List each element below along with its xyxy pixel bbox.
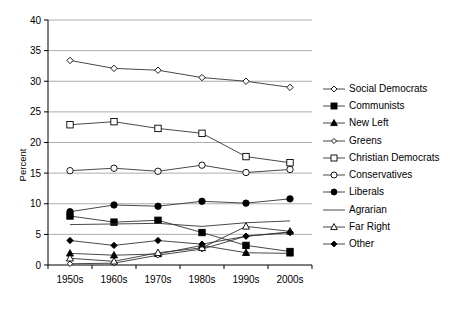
series-social-democrats [67, 57, 293, 90]
y-tick-label: 5 [35, 229, 41, 240]
data-point [155, 67, 161, 73]
data-point [199, 162, 205, 168]
data-point [155, 217, 161, 223]
open-diamond-marker-icon [322, 82, 346, 96]
open-square-marker-icon [322, 151, 346, 165]
legend-label: Christian Democrats [346, 152, 440, 164]
y-axis-tick-labels: 0510152025303540 [30, 15, 42, 271]
series-conservatives [67, 162, 293, 176]
legend-item-social-democrats[interactable]: Social Democrats [322, 80, 462, 97]
chart-legend: Social DemocratsCommunistsNew LeftGreens… [322, 80, 462, 253]
y-tick-label: 35 [30, 45, 42, 56]
x-axis-ticks [48, 265, 312, 269]
chart-figure: 0510152025303540 1950s1960s1970s1980s199… [0, 0, 464, 312]
data-point [199, 229, 205, 235]
filled-square-marker-icon [322, 99, 346, 113]
y-tick-label: 20 [30, 137, 42, 148]
legend-label: Far Right [346, 221, 390, 233]
legend-item-other[interactable]: Other [322, 236, 462, 253]
data-point [67, 167, 73, 173]
data-point [111, 242, 117, 248]
data-point [243, 153, 249, 159]
data-point [111, 202, 117, 208]
data-point [287, 196, 293, 202]
open-triangle-marker-icon [322, 220, 346, 234]
data-point [67, 57, 73, 63]
y-tick-label: 0 [35, 260, 41, 271]
data-point [199, 198, 205, 204]
legend-item-agrarian[interactable]: Agrarian [322, 201, 462, 218]
data-point [287, 160, 293, 166]
data-point [287, 229, 293, 235]
x-axis-category-labels: 1950s1960s1970s1980s1990s2000s [56, 274, 303, 285]
y-tick-label: 15 [30, 168, 42, 179]
y-tick-label: 40 [30, 15, 42, 26]
open-circle-marker-icon [322, 168, 346, 182]
data-point [67, 237, 73, 243]
data-point [155, 237, 161, 243]
y-axis-title: Percent [17, 148, 28, 181]
data-point [199, 130, 205, 136]
legend-item-liberals[interactable]: Liberals [322, 184, 462, 201]
filled-circle-marker-icon [322, 185, 346, 199]
data-point [287, 166, 293, 172]
series-communists [67, 213, 293, 255]
data-point [155, 203, 161, 209]
data-series-group [66, 57, 293, 266]
legend-label: Social Democrats [346, 83, 427, 95]
y-axis-ticks [44, 20, 48, 265]
data-point [155, 125, 161, 131]
data-point [111, 65, 117, 71]
data-point [155, 168, 161, 174]
data-point [199, 74, 205, 80]
legend-item-communists[interactable]: Communists [322, 97, 462, 114]
data-point [243, 242, 249, 248]
x-category-label: 2000s [276, 274, 303, 285]
open-diamond-small-marker-icon [322, 134, 346, 148]
x-category-label: 1980s [188, 274, 215, 285]
data-point [243, 169, 249, 175]
legend-label: Liberals [346, 186, 384, 198]
x-category-label: 1970s [144, 274, 171, 285]
legend-item-new-left[interactable]: New Left [322, 115, 462, 132]
series-other [67, 229, 293, 248]
filled-diamond-marker-icon [322, 237, 346, 251]
y-tick-label: 25 [30, 106, 42, 117]
data-point [67, 261, 72, 266]
y-tick-label: 10 [30, 198, 42, 209]
x-category-label: 1960s [100, 274, 127, 285]
legend-item-greens[interactable]: Greens [322, 132, 462, 149]
gridlines [48, 20, 312, 234]
series-far-right [66, 223, 293, 264]
x-category-label: 1950s [56, 274, 83, 285]
data-point [243, 233, 249, 239]
legend-item-conservatives[interactable]: Conservatives [322, 166, 462, 183]
data-point [67, 122, 73, 128]
legend-item-christian-democrats[interactable]: Christian Democrats [322, 149, 462, 166]
legend-label: New Left [346, 117, 388, 129]
legend-label: Greens [346, 135, 382, 147]
legend-label: Conservatives [346, 169, 412, 181]
data-point [243, 78, 249, 84]
x-category-label: 1990s [232, 274, 259, 285]
data-point [111, 118, 117, 124]
legend-label: Agrarian [346, 204, 387, 216]
data-point [67, 209, 73, 215]
legend-item-far-right[interactable]: Far Right [322, 218, 462, 235]
data-point [111, 165, 117, 171]
series-agrarian [70, 221, 290, 227]
filled-triangle-marker-icon [322, 116, 346, 130]
series-liberals [67, 196, 293, 215]
legend-label: Communists [346, 100, 405, 112]
data-point [287, 84, 293, 90]
legend-label: Other [346, 238, 374, 250]
data-point [242, 223, 249, 229]
data-point [243, 200, 249, 206]
none-marker-icon [322, 203, 346, 217]
y-tick-label: 30 [30, 76, 42, 87]
